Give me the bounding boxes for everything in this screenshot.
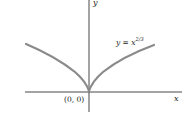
chart: y x (0, 0) y = x2/3 [0,0,192,117]
y-axis-label: y [92,0,98,7]
curve-label: y = x2/3 [115,36,144,47]
x-axis-label: x [174,94,179,103]
origin-label: (0, 0) [64,95,84,104]
curve-y-equals-x-two-thirds [26,44,154,91]
